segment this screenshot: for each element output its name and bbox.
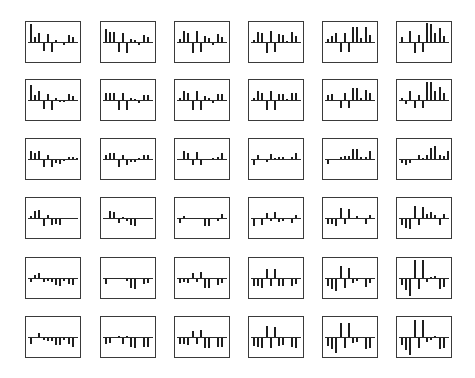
bar	[47, 94, 49, 100]
bar	[331, 36, 333, 42]
chart-panel-r4-c1	[25, 197, 81, 239]
bar	[434, 215, 436, 218]
chart-panel-r4-c5	[322, 197, 378, 239]
bar	[217, 34, 219, 42]
bar	[270, 219, 272, 221]
bar	[422, 207, 424, 218]
bar	[348, 268, 350, 278]
bar	[430, 24, 432, 42]
bar	[418, 95, 420, 100]
bar	[274, 327, 276, 337]
bar	[208, 38, 210, 42]
bar	[204, 96, 206, 100]
bar	[187, 279, 189, 283]
bar	[138, 158, 140, 159]
zero-line	[251, 42, 301, 43]
bar	[118, 336, 120, 337]
bar	[55, 40, 57, 42]
bar	[331, 338, 333, 349]
bar	[118, 219, 120, 223]
bar	[105, 93, 107, 100]
bar	[138, 101, 140, 103]
bar	[352, 27, 354, 42]
zero-line	[28, 42, 78, 43]
chart-panel-r3-c2	[100, 138, 156, 180]
bar	[291, 157, 293, 159]
bar	[409, 31, 411, 42]
chart-panel-r6-c1	[25, 316, 81, 358]
bar	[430, 277, 432, 278]
bar	[38, 91, 40, 100]
zero-line	[103, 159, 153, 160]
bar	[200, 43, 202, 52]
bar	[439, 87, 441, 100]
chart-panel-r3-c4	[248, 138, 304, 180]
bar	[34, 95, 36, 100]
bar	[295, 279, 297, 284]
zero-line	[399, 42, 449, 43]
chart-panel-r1-c3	[174, 21, 230, 63]
zero-line	[28, 337, 78, 338]
bar	[327, 160, 329, 164]
bar	[72, 338, 74, 347]
bar	[344, 156, 346, 159]
bar	[426, 82, 428, 100]
bar	[204, 279, 206, 288]
bar	[208, 219, 210, 226]
bar	[434, 146, 436, 159]
bar	[365, 157, 367, 159]
chart-panel-r5-c6	[396, 257, 452, 299]
bar	[38, 210, 40, 218]
bar	[331, 219, 333, 224]
bar	[418, 35, 420, 42]
bar	[43, 43, 45, 51]
chart-panel-r2-c2	[100, 79, 156, 121]
bar	[55, 279, 57, 285]
bar	[365, 279, 367, 287]
bar	[134, 160, 136, 162]
bar	[113, 212, 115, 218]
bar	[278, 279, 280, 286]
bar	[439, 219, 441, 225]
bar	[68, 35, 70, 42]
bar	[266, 326, 268, 337]
bar	[340, 157, 342, 159]
bar	[196, 338, 198, 344]
bar	[134, 219, 136, 226]
bar	[434, 276, 436, 278]
bar	[68, 94, 70, 100]
bar	[356, 338, 358, 342]
bar	[409, 279, 411, 296]
bar	[126, 101, 128, 110]
bar	[51, 338, 53, 341]
bar	[266, 101, 268, 110]
bar	[360, 38, 362, 42]
bar	[109, 338, 111, 343]
chart-panel-r5-c3	[174, 257, 230, 299]
bar	[130, 219, 132, 225]
chart-panel-r5-c5	[322, 257, 378, 299]
bar	[59, 338, 61, 345]
bar	[208, 98, 210, 100]
bar	[212, 101, 214, 103]
bar	[348, 43, 350, 52]
bar	[443, 214, 445, 218]
bar	[270, 279, 272, 286]
bar	[257, 338, 259, 347]
bar	[55, 219, 57, 224]
bar	[72, 37, 74, 42]
bar	[405, 219, 407, 228]
bar	[217, 338, 219, 347]
bar	[134, 279, 136, 289]
chart-panel-r1-c4	[248, 21, 304, 63]
bar	[327, 279, 329, 286]
bar	[192, 43, 194, 53]
chart-panel-r5-c2	[100, 257, 156, 299]
bar	[278, 157, 280, 159]
bar	[430, 148, 432, 159]
bar	[34, 153, 36, 159]
bar	[113, 93, 115, 100]
bar	[51, 219, 53, 225]
bar	[344, 33, 346, 42]
zero-line	[103, 42, 153, 43]
